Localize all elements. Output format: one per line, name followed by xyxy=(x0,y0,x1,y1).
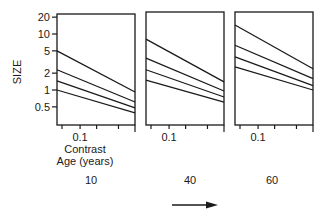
series-line-4 xyxy=(57,90,135,113)
x-tick-label: 0.1 xyxy=(72,131,87,143)
series-line-1 xyxy=(146,39,224,82)
x-axis-title: Contrast xyxy=(64,143,106,155)
panel-frame xyxy=(57,14,135,125)
series-line-3 xyxy=(57,81,135,108)
x-tick-label: 0.1 xyxy=(161,131,176,143)
y-axis-title: SIZE xyxy=(11,60,23,84)
size-vs-contrast-chart: 0.10.10.1 20105210.5 SIZE Contrast Age (… xyxy=(0,0,327,217)
y-tick-label: 5 xyxy=(44,45,50,57)
series-line-2 xyxy=(146,58,224,91)
x-tick-label: 0.1 xyxy=(250,131,265,143)
y-tick-label: 2 xyxy=(44,67,50,79)
y-tick-label: 0.5 xyxy=(35,101,50,113)
age-label: 10 xyxy=(85,174,97,186)
y-axis: 20105210.5 xyxy=(35,11,57,113)
series-line-4 xyxy=(235,67,313,90)
panel-age-10: 0.1 xyxy=(57,14,135,143)
arrow-right-icon xyxy=(172,202,218,209)
panel-age-40: 0.1 xyxy=(146,12,224,143)
panel-frame xyxy=(235,12,313,125)
age-axis-title: Age (years) xyxy=(57,155,114,167)
age-label: 60 xyxy=(266,174,278,186)
y-tick-label: 1 xyxy=(44,84,50,96)
age-labels: 104060 xyxy=(85,174,278,186)
panel-age-60: 0.1 xyxy=(235,12,313,143)
y-tick-label: 10 xyxy=(38,28,50,40)
age-label: 40 xyxy=(184,174,196,186)
panel-frame xyxy=(146,12,224,125)
y-tick-label: 20 xyxy=(38,11,50,23)
chart-panels: 0.10.10.1 xyxy=(57,12,313,143)
